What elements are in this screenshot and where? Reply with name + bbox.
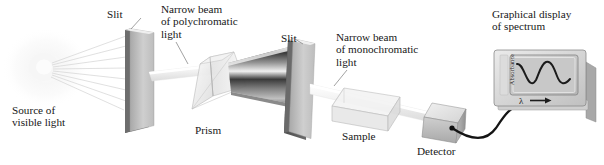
label-slit-2: Slit bbox=[281, 32, 297, 44]
detector bbox=[422, 103, 466, 143]
label-polychromatic-beam: Narrow beam of polychromatic light bbox=[161, 3, 238, 40]
slit-1 bbox=[125, 29, 154, 133]
label-slit-1: Slit bbox=[107, 8, 123, 20]
label-source: Source of visible light bbox=[12, 104, 65, 129]
monitor-x-axis-arrow-icon bbox=[530, 97, 552, 104]
label-monochromatic-beam: Narrow beam of monochromatic light bbox=[336, 31, 418, 68]
monitor-y-axis-label: Absorbance bbox=[508, 53, 515, 87]
monitor-x-axis-label: λ bbox=[519, 96, 523, 106]
label-graphical-display: Graphical display of spectrum bbox=[492, 8, 571, 33]
light-source bbox=[2, 28, 90, 108]
label-prism: Prism bbox=[195, 124, 221, 136]
label-sample: Sample bbox=[342, 130, 376, 142]
label-detector: Detector bbox=[417, 145, 456, 157]
sample-cuvette bbox=[332, 88, 400, 131]
figure-canvas: Source of visible light Slit Narrow beam… bbox=[0, 0, 604, 165]
